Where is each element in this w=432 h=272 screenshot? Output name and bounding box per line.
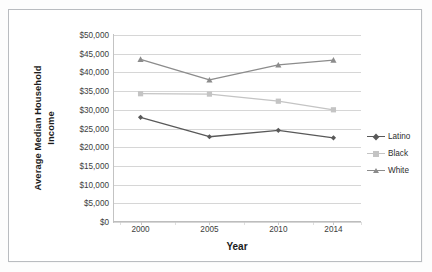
- y-axis-tick-label: $15,000: [57, 161, 109, 170]
- x-axis-tick-label: 2010: [269, 225, 287, 234]
- series-white: [137, 56, 336, 82]
- series-black: [138, 91, 336, 112]
- x-axis-title: Year: [113, 241, 361, 252]
- data-point-marker: [207, 134, 212, 139]
- legend-swatch-square-icon: [367, 149, 385, 159]
- legend-item-white[interactable]: White: [367, 162, 429, 179]
- series-line: [141, 117, 334, 138]
- y-axis-tick-label: $40,000: [57, 68, 109, 77]
- x-axis-minor-tickmark: [361, 222, 362, 225]
- legend-swatch-diamond-icon: [367, 132, 385, 142]
- series-layer: [113, 35, 361, 222]
- legend-swatch-triangle-icon: [367, 166, 385, 176]
- y-axis-tick-label: $30,000: [57, 105, 109, 114]
- data-point-marker: [207, 91, 212, 96]
- data-point-marker: [138, 91, 143, 96]
- legend-item-latino[interactable]: Latino: [367, 128, 429, 145]
- series-latino: [138, 115, 336, 141]
- x-axis-tick-label: 2000: [131, 225, 149, 234]
- x-axis-tick-label: 2014: [324, 225, 342, 234]
- legend-label: Latino: [388, 132, 410, 141]
- plot-area: [113, 35, 361, 222]
- y-axis-tick-label: $10,000: [57, 180, 109, 189]
- gridline: [113, 222, 361, 223]
- legend-label: White: [388, 166, 409, 175]
- chart-legend: LatinoBlackWhite: [367, 128, 429, 179]
- y-axis-tick-labels: $0$5,000$10,000$15,000$20,000$25,000$30,…: [55, 35, 109, 222]
- legend-item-black[interactable]: Black: [367, 145, 429, 162]
- y-axis-tick-label: $5,000: [57, 199, 109, 208]
- data-point-marker: [138, 115, 143, 120]
- y-axis-tick-label: $0: [57, 218, 109, 227]
- y-axis-tick-label: $45,000: [57, 49, 109, 58]
- data-point-marker: [276, 99, 281, 104]
- data-point-marker: [331, 135, 336, 140]
- series-line: [141, 59, 334, 80]
- y-axis-title-line1: Average Median Household: [31, 66, 42, 191]
- data-point-marker: [137, 56, 143, 62]
- y-axis-tick-label: $25,000: [57, 124, 109, 133]
- data-point-marker: [276, 128, 281, 133]
- series-line: [141, 94, 334, 110]
- legend-label: Black: [388, 149, 408, 158]
- y-axis-tick-label: $35,000: [57, 87, 109, 96]
- y-axis-tick-label: $50,000: [57, 31, 109, 40]
- chart-container: Average Median Household Income $0$5,000…: [8, 9, 422, 262]
- y-axis-tick-label: $20,000: [57, 143, 109, 152]
- scanned-page: Average Median Household Income $0$5,000…: [0, 0, 432, 272]
- data-point-marker: [331, 107, 336, 112]
- x-axis-tick-labels: 2000200520102014: [113, 225, 361, 239]
- x-axis-tick-label: 2005: [200, 225, 218, 234]
